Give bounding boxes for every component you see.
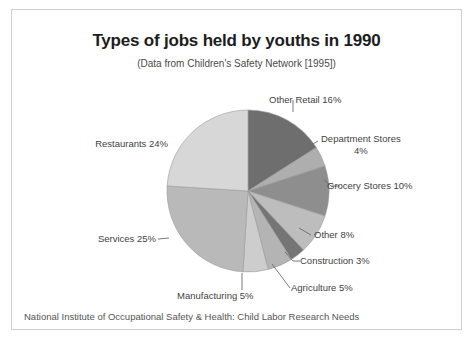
slice-label-department-stores-text: Department Stores (321, 133, 401, 144)
slice-label-other-retail: Other Retail 16% (269, 94, 341, 106)
slice-label-agriculture: Agriculture 5% (291, 282, 353, 294)
leader-line-agriculture (272, 264, 290, 288)
slice-label-grocery-stores: Grocery Stores 10% (327, 180, 413, 192)
slice-label-manufacturing: Manufacturing 5% (177, 290, 254, 302)
slice-label-services: Services 25% (48, 233, 156, 245)
pie-slice-group (167, 110, 329, 272)
slice-label-department-stores-value: 4% (354, 145, 368, 156)
slice-label-grocery-stores-text: Grocery Stores 10% (327, 180, 413, 191)
pie-slice-services (167, 186, 248, 272)
slice-label-agriculture-text: Agriculture 5% (291, 282, 353, 293)
slice-label-other-retail-text: Other Retail 16% (269, 94, 341, 105)
slice-label-construction-text: Construction 3% (300, 255, 370, 266)
slice-label-department-stores: Department Stores 4% (321, 133, 401, 157)
slice-label-manufacturing-text: Manufacturing 5% (177, 290, 254, 301)
pie-slice-restaurants (167, 110, 248, 191)
leader-line-services (158, 238, 169, 239)
slice-label-construction: Construction 3% (300, 255, 370, 267)
slice-label-services-text: Services 25% (98, 233, 156, 244)
slice-label-restaurants-text: Restaurants 24% (95, 138, 168, 149)
slice-label-other-text: Other 8% (314, 229, 354, 240)
slice-label-restaurants: Restaurants 24% (58, 138, 168, 150)
slice-label-other: Other 8% (314, 229, 354, 241)
